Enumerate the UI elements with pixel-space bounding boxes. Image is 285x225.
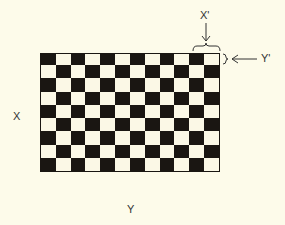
x-prime-brace-icon bbox=[193, 43, 220, 51]
annotation-arrows bbox=[0, 0, 285, 225]
y-prime-arrow-icon bbox=[232, 55, 257, 63]
x-prime-arrow-icon bbox=[202, 23, 210, 41]
y-prime-brace-icon bbox=[223, 54, 228, 64]
